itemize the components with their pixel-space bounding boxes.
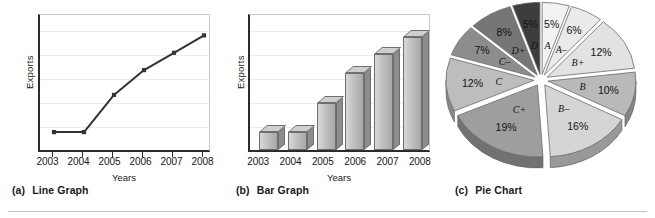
bar-column — [259, 125, 285, 150]
pie-slice-grade-label: B+ — [572, 57, 585, 68]
caption-label: Line Graph — [32, 184, 88, 196]
panel-bar-graph: Exports 200320042005200620072008 Years (… — [222, 0, 437, 218]
x-tick-label: 2005 — [94, 156, 125, 167]
bar-front-face — [403, 37, 422, 150]
pie-slice-grade-label: A — [544, 40, 552, 51]
panel-caption-bar-graph: (b) Bar Graph — [236, 184, 309, 196]
figure-bottom-divider — [8, 211, 647, 212]
x-tick-label: 2004 — [63, 156, 94, 167]
pie-slice-grade-label: B– — [558, 103, 570, 114]
line-graph-y-axis-title: Exports — [24, 55, 35, 89]
panel-line-graph: Exports 200320042005200620072008 Years (… — [0, 0, 222, 218]
x-tick-label: 2005 — [307, 156, 339, 167]
bar-column — [403, 30, 429, 150]
bar-front-face — [288, 132, 307, 150]
pie-slice-percent-label: 5% — [523, 18, 538, 30]
caption-label: Bar Graph — [257, 184, 309, 196]
pie-slice-percent-label: 12% — [591, 46, 612, 58]
bar-graph-y-axis-title: Exports — [235, 55, 246, 89]
pie-slice-percent-label: 5% — [544, 18, 559, 30]
x-tick-label: 2007 — [371, 156, 403, 167]
caption-label: Pie Chart — [475, 184, 522, 196]
x-tick-label: 2006 — [339, 156, 371, 167]
pie-slice-percent-label: 7% — [474, 44, 489, 56]
bar-front-face — [345, 73, 364, 150]
pie-slice-grade-label: D — [530, 40, 539, 51]
x-tick-label: 2004 — [274, 156, 306, 167]
caption-index: (a) — [12, 184, 25, 196]
bar-column — [345, 66, 371, 150]
line-graph-series — [40, 15, 212, 153]
x-tick-label: 2008 — [404, 156, 436, 167]
bar-graph-x-axis-title: Years — [248, 172, 430, 183]
line-graph-plot-area — [38, 14, 210, 152]
pie-slice-percent-label: 10% — [598, 84, 619, 96]
bar-column — [374, 47, 400, 150]
bar-side-face — [336, 97, 343, 150]
bar-front-face — [317, 103, 336, 150]
panel-caption-line-graph: (a) Line Graph — [12, 184, 89, 196]
bar-graph-series — [250, 15, 429, 150]
pie-slice-percent-label: 19% — [496, 121, 517, 133]
x-tick-label: 2007 — [156, 156, 187, 167]
pie-slice-percent-label: 16% — [567, 120, 588, 132]
pie-slice-grade-label: C — [496, 76, 503, 87]
pie-slice-percent-label: 6% — [566, 24, 581, 36]
bar-column — [317, 96, 343, 150]
bar-side-face — [364, 67, 371, 150]
caption-index: (b) — [236, 184, 250, 196]
bar-graph-x-tick-labels: 200320042005200620072008 — [242, 156, 436, 167]
x-tick-label: 2006 — [125, 156, 156, 167]
line-graph-x-axis-title: Years — [38, 172, 210, 183]
pie-slice-percent-label: 12% — [462, 77, 483, 89]
bar-column — [288, 125, 314, 150]
pie-slice-grade-label: C– — [499, 56, 512, 67]
bar-side-face — [393, 48, 400, 150]
pie-slice-grade-label: B — [579, 81, 585, 92]
pie-slice-percent-label: 8% — [497, 26, 512, 38]
x-tick-label: 2008 — [187, 156, 218, 167]
bar-graph-plot-area — [248, 14, 430, 152]
bar-front-face — [374, 54, 393, 150]
panel-caption-pie-chart: (c) Pie Chart — [455, 184, 522, 196]
x-tick-label: 2003 — [32, 156, 63, 167]
bar-side-face — [422, 32, 429, 150]
bar-front-face — [259, 132, 278, 150]
pie-slice-grade-label: A– — [555, 44, 568, 55]
figure-container: Exports 200320042005200620072008 Years (… — [0, 0, 655, 218]
pie-slice-grade-label: C+ — [513, 104, 526, 115]
line-graph-x-tick-labels: 200320042005200620072008 — [32, 156, 218, 167]
pie-chart-graphic: 5%A6%A–12%B+10%B16%B–19%C+12%C7%C–8%D+5%… — [437, 0, 655, 178]
x-tick-label: 2003 — [242, 156, 274, 167]
pie-slice-grade-label: D+ — [510, 45, 525, 56]
panel-pie-chart: 5%A6%A–12%B+10%B16%B–19%C+12%C7%C–8%D+5%… — [437, 0, 655, 218]
caption-index: (c) — [455, 184, 468, 196]
